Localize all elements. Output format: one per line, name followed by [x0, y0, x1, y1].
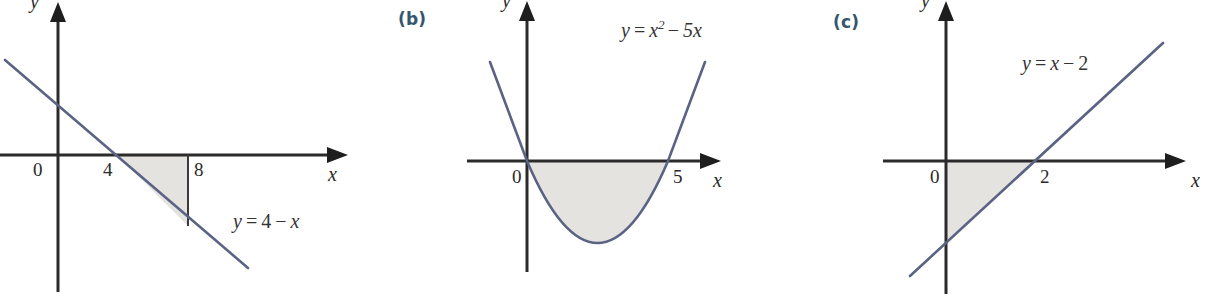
x-axis-label-b: x — [713, 169, 722, 192]
panel-a-graph — [0, 0, 390, 298]
y-axis-arrow-b — [519, 1, 535, 21]
equation-a-rhs-b: x — [290, 210, 299, 232]
origin-label-b: 0 — [512, 166, 522, 188]
equation-a-lhs: y — [233, 210, 242, 232]
equation-label-b: y=x2−5x — [621, 19, 702, 42]
equation-b-lhs: y — [621, 19, 630, 41]
equation-b-exponent: 2 — [658, 17, 665, 32]
equation-label-a: y=4−x — [233, 210, 299, 233]
equation-b-eq: = — [634, 19, 645, 41]
panel-b-graph — [390, 0, 805, 298]
equation-c-eq: = — [1035, 52, 1046, 74]
equation-a-rhs-a: 4 — [261, 210, 271, 232]
equation-c-lhs: y — [1022, 52, 1031, 74]
x-tick-5: 5 — [673, 166, 683, 188]
y-axis-label-a: y — [30, 0, 39, 13]
x-tick-8: 8 — [194, 159, 204, 181]
x-axis-arrow-a — [327, 147, 348, 163]
panel-c: (c) y x 0 2 y=x−2 — [805, 0, 1205, 298]
origin-label-c: 0 — [930, 166, 940, 188]
panel-c-graph — [805, 0, 1205, 298]
x-axis-arrow-c — [1165, 153, 1186, 169]
equation-c-rhs-a: x — [1050, 52, 1059, 74]
y-axis-label-c: y — [921, 0, 930, 12]
x-axis-label-c: x — [1191, 169, 1200, 192]
equation-b-rhs-a: x — [649, 19, 658, 41]
y-axis-label-b: y — [502, 0, 511, 12]
x-tick-2: 2 — [1040, 166, 1050, 188]
panel-b: (b) y x 0 5 y=x2−5x — [390, 0, 805, 298]
figure-root: y x 0 4 8 y=4−x (b) y x 0 5 y=x2−5x — [0, 0, 1205, 298]
panel-a: y x 0 4 8 y=4−x — [0, 0, 390, 298]
y-axis-arrow-a — [50, 2, 66, 22]
equation-a-eq: = — [246, 210, 257, 232]
equation-c-rhs-b: 2 — [1078, 52, 1088, 74]
equation-a-minus: − — [275, 210, 286, 232]
panel-tag-c: (c) — [833, 12, 859, 32]
x-tick-4: 4 — [103, 159, 113, 181]
origin-label-a: 0 — [33, 159, 43, 181]
x-axis-label-a: x — [328, 163, 337, 186]
panel-tag-b: (b) — [398, 9, 426, 29]
y-axis-arrow-c — [938, 1, 954, 21]
equation-c-minus: − — [1063, 52, 1074, 74]
equation-label-c: y=x−2 — [1022, 52, 1088, 75]
x-axis-arrow-b — [700, 153, 721, 169]
equation-b-rhs-b: 5x — [683, 19, 702, 41]
equation-b-minus: − — [668, 19, 679, 41]
